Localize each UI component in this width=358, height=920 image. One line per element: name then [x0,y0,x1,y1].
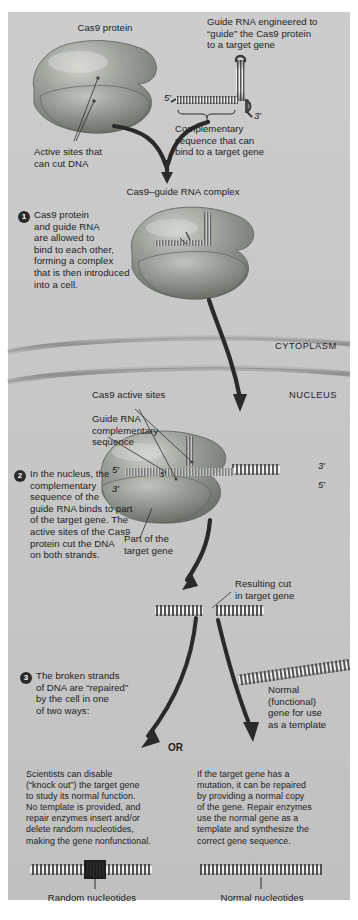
active-sites-label: Active sites that can cut DNA [34,146,164,169]
cas9-protein-label: Cas9 protein [40,22,170,34]
nucleus-label: NUCLEUS [289,390,337,400]
left-inner-five-prime-label: 5′ [160,470,166,479]
step-1-badge: 1 [18,211,30,223]
rna-three-prime-label: 3′ [254,110,261,121]
right-outer-three-prime-label: 3′ [318,460,325,471]
guide-rna-engineered-label: Guide RNA engineered to “guide” the Cas9… [207,16,357,51]
cas9-active-sites-label: Cas9 active sites [92,389,212,401]
guide-rna-complementary-sequence-label: Guide RNA complementary sequence [92,413,202,448]
repaired-gene-illustration [200,864,322,889]
complementary-sequence-label: Complementary sequence that can bind to … [175,123,325,158]
step-3-badge: 3 [20,672,32,684]
step-2-badge: 2 [14,470,26,482]
entry-arrow [209,300,247,412]
or-label: OR [168,742,183,754]
complex-title-label: Cas9–guide RNA complex [98,186,268,198]
cytoplasm-label: CYTOPLASM [275,341,337,351]
left-outer-five-prime-label: 5′ [112,464,119,475]
right-outer-five-prime-label: 5′ [318,479,325,490]
outcome-right-text: If the target gene has a mutation, it ca… [197,769,347,847]
rna-five-prime-label: 5′ [164,92,171,103]
normal-template-gene-label: Normal (functional) gene for use as a te… [268,684,354,730]
normal-nucleotides-label: Normal nucleotides [194,892,330,904]
knockout-gene-illustration [30,860,152,889]
resulting-cut-label: Resulting cut in target gene [235,578,345,601]
step-3-text: The broken strands of DNA are “repaired”… [36,670,186,716]
crispr-diagram-figure: Cas9 protein Guide RNA engineered to “gu… [0,0,358,920]
step-1-text: Cas9 protein and guide RNA are allowed t… [34,209,168,290]
part-of-target-gene-label: Part of the target gene [124,533,224,556]
guide-rna-illustration [171,56,252,121]
nuclear-envelope [8,368,350,382]
left-outer-three-prime-label: 3′ [112,483,119,494]
normal-template-gene-illustration [238,659,350,685]
outcome-left-text: Scientists can disable (“knock out”) the… [26,769,180,847]
cas9-protein-illustration [33,41,156,141]
random-nucleotides-label: Random nucleotides [24,892,160,904]
